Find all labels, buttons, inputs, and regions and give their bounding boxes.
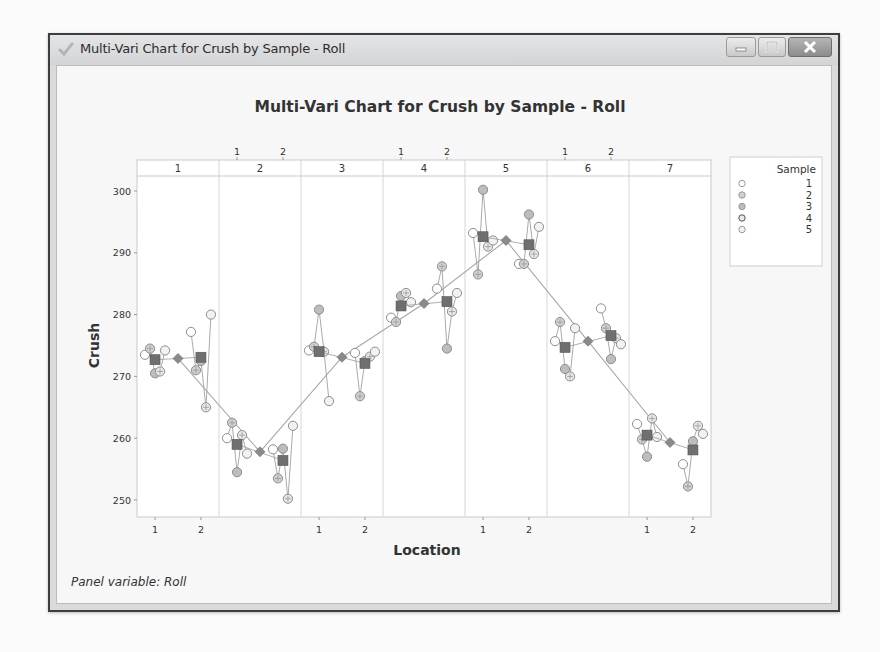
y-tick-label: 270 <box>113 371 131 382</box>
chart-area: Multi-Vari Chart for Crush by Sample - R… <box>56 65 832 604</box>
sample-marker <box>632 419 641 428</box>
sample-point <box>688 437 697 446</box>
sample-point <box>432 284 441 293</box>
sample-point <box>288 421 297 430</box>
minimize-button[interactable] <box>726 37 756 57</box>
sample-point <box>186 327 195 336</box>
sample-marker <box>488 236 497 245</box>
x-tick-label: 2 <box>690 524 696 535</box>
x-tick-label: 1 <box>234 146 240 157</box>
maximize-button[interactable] <box>758 37 786 57</box>
sample-marker <box>693 421 702 430</box>
close-button[interactable] <box>788 37 832 57</box>
location-mean-square <box>642 430 652 440</box>
x-tick-label: 1 <box>480 524 486 535</box>
sample-marker <box>350 348 359 357</box>
location-mean-square <box>396 301 406 311</box>
sample-marker <box>529 249 538 258</box>
sample-marker <box>242 449 251 458</box>
sample-marker <box>678 460 687 469</box>
sample-marker <box>452 288 461 297</box>
sample-point <box>534 222 543 231</box>
location-mean-square <box>196 352 206 362</box>
sample-marker <box>447 307 456 316</box>
location-mean-square <box>150 355 160 365</box>
x-tick-label: 1 <box>316 524 322 535</box>
x-tick-label: 2 <box>526 524 532 535</box>
legend-marker <box>739 226 745 232</box>
sample-point <box>232 468 241 477</box>
sample-marker <box>478 185 487 194</box>
sample-marker <box>555 317 564 326</box>
sample-marker <box>201 403 210 412</box>
legend-entry: 5 <box>806 224 812 235</box>
sample-marker <box>288 421 297 430</box>
sample-point <box>632 419 641 428</box>
sample-marker <box>273 474 282 483</box>
sample-point <box>488 236 497 245</box>
y-tick-label: 260 <box>113 433 131 444</box>
sample-marker <box>145 344 154 353</box>
sample-marker <box>534 222 543 231</box>
sample-point <box>570 324 579 333</box>
sample-marker <box>683 482 692 491</box>
sample-marker <box>370 347 379 356</box>
x-tick-label: 1 <box>644 524 650 535</box>
sample-marker <box>155 367 164 376</box>
x-tick-label: 1 <box>562 146 568 157</box>
sample-point <box>468 228 477 237</box>
title-bar[interactable]: Multi-Vari Chart for Crush by Sample - R… <box>50 35 838 65</box>
sample-marker <box>324 397 333 406</box>
sample-marker <box>596 304 605 313</box>
x-axis-label: Location <box>393 542 460 558</box>
sample-point <box>268 445 277 454</box>
sample-point <box>350 348 359 357</box>
sample-point <box>160 346 169 355</box>
sample-marker <box>237 431 246 440</box>
location-mean-square <box>478 232 488 242</box>
sample-marker <box>160 346 169 355</box>
y-tick-label: 280 <box>113 309 131 320</box>
location-mean-square <box>442 297 452 307</box>
sample-marker <box>647 414 656 423</box>
sample-marker <box>232 468 241 477</box>
sample-point <box>370 347 379 356</box>
panel-label: 5 <box>503 163 509 174</box>
panel-label: 3 <box>339 163 345 174</box>
sample-point <box>206 310 215 319</box>
sample-marker <box>519 259 528 268</box>
sample-marker <box>442 344 451 353</box>
sample-marker <box>222 434 231 443</box>
location-mean-square <box>688 445 698 455</box>
plot-frame <box>137 160 711 517</box>
location-mean-square <box>232 439 242 449</box>
close-icon <box>789 38 831 56</box>
legend-title: Sample <box>777 163 816 175</box>
legend-marker <box>739 192 745 198</box>
sample-point <box>452 288 461 297</box>
panel-label: 6 <box>585 163 591 174</box>
sample-marker <box>437 262 446 271</box>
sample-point <box>524 210 533 219</box>
sample-marker <box>565 372 574 381</box>
sample-point <box>616 340 625 349</box>
legend: Sample12345 <box>730 157 822 266</box>
location-mean-square <box>360 358 370 368</box>
x-tick-label: 2 <box>280 146 286 157</box>
minimize-icon <box>727 38 755 56</box>
panel-label: 7 <box>667 163 673 174</box>
legend-entry: 2 <box>806 190 812 201</box>
sample-marker <box>698 429 707 438</box>
sample-marker <box>206 310 215 319</box>
legend-entry: 1 <box>806 178 812 189</box>
panel-label: 1 <box>175 163 181 174</box>
x-tick-label: 2 <box>362 524 368 535</box>
sample-marker <box>401 288 410 297</box>
sample-point <box>678 460 687 469</box>
y-tick-label: 290 <box>113 247 131 258</box>
sample-marker <box>616 340 625 349</box>
window-title: Multi-Vari Chart for Crush by Sample - R… <box>80 41 345 56</box>
multi-vari-chart: Multi-Vari Chart for Crush by Sample - R… <box>57 66 833 604</box>
sample-marker <box>606 354 615 363</box>
sample-marker <box>473 270 482 279</box>
